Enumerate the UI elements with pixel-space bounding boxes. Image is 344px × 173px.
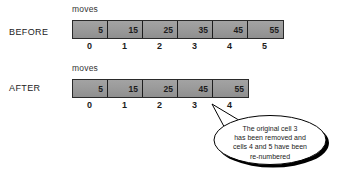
array-cell: 15 [108,80,143,97]
callout-line: The original cell 3 [216,124,324,133]
array-strip-before: 5 15 25 35 45 55 [72,20,284,39]
row-label-before: BEFORE [9,27,48,37]
callout-text: The original cell 3 has been removed and… [216,124,324,161]
index-number: 4 [212,100,247,110]
array-cell: 55 [248,21,283,38]
callout-line: re-numbered [216,152,324,161]
index-number: 3 [177,41,212,51]
array-cell: 25 [143,21,178,38]
index-number: 5 [247,41,282,51]
row-label-after: AFTER [9,83,41,93]
diagram-canvas: BEFORE moves 5 15 25 35 45 55 0 1 2 3 4 … [0,0,344,173]
index-number: 0 [72,41,107,51]
index-number: 0 [72,100,107,110]
array-cell: 5 [73,21,108,38]
index-number: 2 [142,100,177,110]
array-cell: 35 [178,21,213,38]
index-number: 1 [107,41,142,51]
index-number: 3 [177,100,212,110]
array-cell: 5 [73,80,108,97]
moves-caption-after: moves [72,63,98,73]
array-cell: 45 [213,21,248,38]
callout-line: has been removed and [216,133,324,142]
array-strip-after: 5 15 25 45 55 [72,79,249,98]
index-number: 2 [142,41,177,51]
array-cell: 55 [213,80,248,97]
index-row-after: 0 1 2 3 4 [72,100,247,110]
array-cell: 45 [178,80,213,97]
array-cell: 15 [108,21,143,38]
index-row-before: 0 1 2 3 4 5 [72,41,282,51]
callout-line: cells 4 and 5 have been [216,142,324,151]
index-number: 1 [107,100,142,110]
index-number: 4 [212,41,247,51]
array-cell: 25 [143,80,178,97]
moves-caption-before: moves [72,4,98,14]
